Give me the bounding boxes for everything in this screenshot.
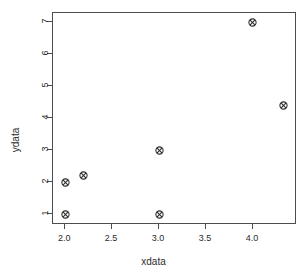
data-point (79, 171, 88, 180)
x-axis-tick-label: 3.5 (199, 233, 212, 243)
y-axis-title-wrapper: ydata (8, 0, 22, 279)
x-axis-tick-label: 2.0 (58, 233, 71, 243)
y-axis-tick-label-wrapper: 5 (25, 80, 45, 90)
data-point (155, 210, 164, 219)
y-axis-tick-label: 5 (40, 83, 50, 88)
scatter-plot-figure: 2.02.53.03.54.0 1234567 xdata ydata (0, 0, 307, 279)
y-axis-title: ydata (10, 127, 21, 151)
y-axis-tick-label: 4 (40, 115, 50, 120)
plot-panel (52, 12, 296, 224)
x-axis-tick (64, 224, 65, 229)
y-axis-tick-label-wrapper: 6 (25, 48, 45, 58)
y-axis-tick-label: 7 (40, 19, 50, 24)
x-axis-tick (111, 224, 112, 229)
y-axis-tick-label: 3 (40, 147, 50, 152)
data-point (279, 101, 288, 110)
x-axis-tick-label: 4.0 (246, 233, 259, 243)
data-point (61, 178, 70, 187)
x-axis-tick (158, 224, 159, 229)
data-point (61, 210, 70, 219)
data-point (248, 18, 257, 27)
x-axis-title: xdata (0, 256, 307, 267)
y-axis-tick-label-wrapper: 4 (25, 112, 45, 122)
y-axis-tick-label: 1 (40, 211, 50, 216)
y-axis-tick-label-wrapper: 1 (25, 208, 45, 218)
y-axis-tick-label: 2 (40, 179, 50, 184)
x-axis-tick-label: 3.0 (152, 233, 165, 243)
y-axis-tick-label-wrapper: 3 (25, 144, 45, 154)
x-axis-tick (252, 224, 253, 229)
y-axis-tick-label-wrapper: 2 (25, 176, 45, 186)
x-axis-tick (205, 224, 206, 229)
y-axis-tick-label: 6 (40, 51, 50, 56)
x-axis-tick-label: 2.5 (105, 233, 118, 243)
y-axis-tick-label-wrapper: 7 (25, 16, 45, 26)
data-point (155, 146, 164, 155)
